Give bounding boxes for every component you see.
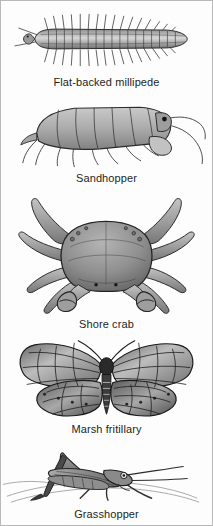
caption-grasshopper: Grasshopper [74, 509, 139, 523]
illustration-plate: Flat-backed millipede [0, 0, 213, 526]
shore-crab-illustration [1, 187, 212, 319]
plate-entry-grasshopper: Grasshopper [1, 438, 212, 523]
caption-marsh-fritillary: Marsh fritillary [71, 424, 141, 438]
plate-entry-shore-crab: Shore crab [1, 187, 212, 333]
plate-entry-millipede: Flat-backed millipede [1, 1, 212, 91]
grasshopper-illustration [1, 438, 212, 509]
millipede-illustration [1, 1, 212, 77]
caption-shore-crab: Shore crab [79, 319, 134, 333]
caption-sandhopper: Sandhopper [76, 173, 137, 187]
marsh-fritillary-illustration [1, 333, 212, 424]
plate-entry-sandhopper: Sandhopper [1, 91, 212, 187]
sandhopper-illustration [1, 91, 212, 173]
plate-entry-marsh-fritillary: Marsh fritillary [1, 333, 212, 438]
caption-millipede: Flat-backed millipede [53, 77, 159, 91]
